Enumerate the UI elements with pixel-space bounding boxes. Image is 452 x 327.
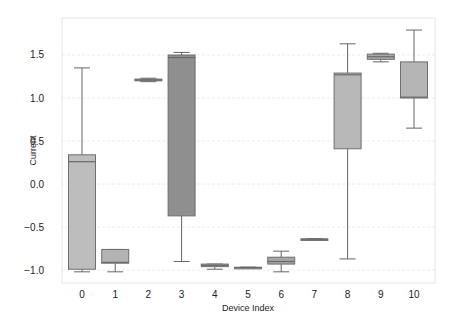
x-tick-label: 10 xyxy=(408,289,420,300)
box-iqr xyxy=(334,73,361,149)
x-tick-label: 8 xyxy=(345,289,351,300)
x-tick-label: 0 xyxy=(79,289,85,300)
box-iqr xyxy=(69,155,96,269)
x-tick-label: 1 xyxy=(112,289,118,300)
box-iqr xyxy=(168,55,195,216)
x-tick-label: 5 xyxy=(245,289,251,300)
y-axis-label: Current xyxy=(28,135,38,166)
box-group-4 xyxy=(201,264,228,269)
box-group-5 xyxy=(235,267,262,269)
x-tick-label: 4 xyxy=(212,289,218,300)
x-axis-label: Device Index xyxy=(222,303,275,313)
y-tick-label: 0.0 xyxy=(30,179,44,190)
box-group-1 xyxy=(102,249,129,271)
y-tick-label: 1.0 xyxy=(30,93,44,104)
box-group-6 xyxy=(268,251,295,272)
x-tick-label: 7 xyxy=(312,289,318,300)
y-tick-label: 1.5 xyxy=(30,49,44,60)
y-tick-label: −1.0 xyxy=(24,265,44,276)
box-iqr xyxy=(102,249,129,263)
x-tick-label: 6 xyxy=(278,289,284,300)
box-group-7 xyxy=(301,239,328,241)
box-group-3 xyxy=(168,52,195,261)
box-plot-chart: −1.0−0.50.00.51.01.5 012345678910 Device… xyxy=(0,0,452,327)
x-tick-label: 2 xyxy=(146,289,152,300)
box-iqr xyxy=(401,62,428,98)
x-tick-label: 9 xyxy=(378,289,384,300)
box-group-2 xyxy=(135,78,162,81)
x-tick-label: 3 xyxy=(179,289,185,300)
x-axis-ticks: 012345678910 xyxy=(79,289,420,300)
box-group-9 xyxy=(367,53,394,62)
y-tick-label: −0.5 xyxy=(24,222,44,233)
box-iqr xyxy=(268,257,295,264)
grid-lines xyxy=(62,55,435,270)
box-group-10 xyxy=(401,30,428,128)
boxes xyxy=(69,30,428,272)
